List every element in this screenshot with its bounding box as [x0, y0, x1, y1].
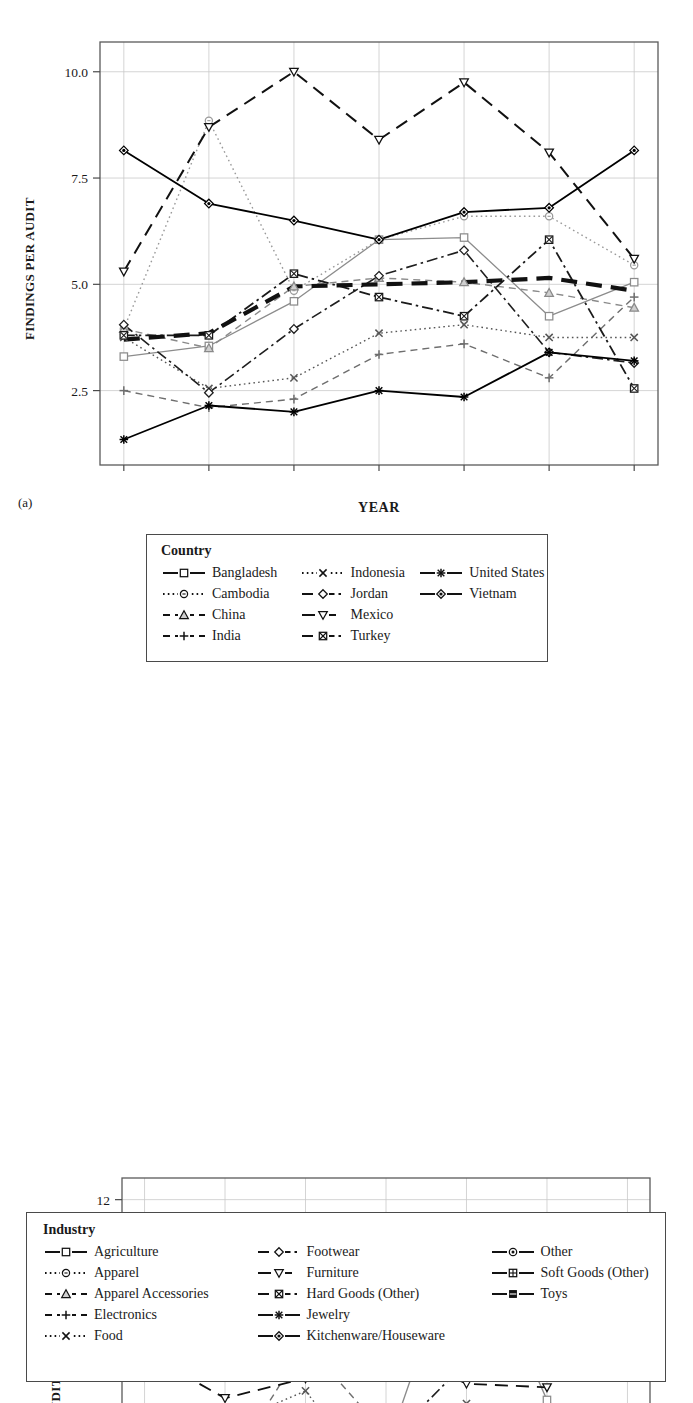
legend-item-label: Vietnam	[469, 586, 516, 602]
panel-a-tag: (a)	[18, 495, 32, 511]
legend-item-footwear[interactable]: Footwear	[256, 1241, 490, 1262]
legend-item-apparel[interactable]: Apparel	[43, 1262, 256, 1283]
svg-text:2014: 2014	[366, 477, 393, 480]
legend-item-united-states[interactable]: United States	[418, 562, 547, 583]
legend-key-icon	[256, 1328, 302, 1344]
legend-item-label: Jewelry	[307, 1307, 351, 1323]
legend-line-sample-icon	[161, 586, 207, 602]
panel-a-y-axis-label: FINDINGS PER AUDIT	[22, 197, 38, 340]
legend-line-sample-icon	[256, 1328, 302, 1344]
legend-key-icon	[418, 586, 464, 602]
legend-item-label: Apparel Accessories	[94, 1286, 209, 1302]
legend-item-turkey[interactable]: Turkey	[300, 625, 419, 646]
panel-a-legend-title: Country	[161, 543, 547, 559]
legend-item-label: Mexico	[351, 607, 394, 623]
legend-item-label: United States	[469, 565, 544, 581]
legend-line-sample-icon	[300, 586, 346, 602]
legend-line-sample-icon	[43, 1328, 89, 1344]
legend-item-hard-goods-other[interactable]: Hard Goods (Other)	[256, 1283, 490, 1304]
legend-item-label: Electronics	[94, 1307, 157, 1323]
svg-text:12: 12	[97, 1193, 111, 1208]
legend-key-icon	[43, 1286, 89, 1302]
legend-line-sample-icon	[418, 565, 464, 581]
legend-line-sample-icon	[43, 1265, 89, 1281]
legend-line-sample-icon	[161, 565, 207, 581]
legend-line-sample-icon	[256, 1307, 302, 1323]
legend-line-sample-icon	[300, 628, 346, 644]
panel-b-legend-title: Industry	[43, 1222, 665, 1238]
legend-item-food[interactable]: Food	[43, 1325, 256, 1346]
legend-key-icon	[490, 1265, 536, 1281]
legend-key-icon	[256, 1265, 302, 1281]
panel-a-x-axis-label: YEAR	[100, 500, 658, 516]
legend-item-label: Cambodia	[212, 586, 270, 602]
legend-key-icon	[161, 607, 207, 623]
legend-item-label: Food	[94, 1328, 123, 1344]
legend-item-indonesia[interactable]: Indonesia	[300, 562, 419, 583]
legend-item-soft-goods-other[interactable]: Soft Goods (Other)	[490, 1262, 665, 1283]
legend-column-1: AgricultureApparelApparel AccessoriesEle…	[43, 1241, 256, 1346]
legend-item-label: Hard Goods (Other)	[307, 1286, 420, 1302]
legend-line-sample-icon	[43, 1286, 89, 1302]
legend-line-sample-icon	[490, 1244, 536, 1260]
legend-key-icon	[161, 628, 207, 644]
legend-item-label: Other	[541, 1244, 573, 1260]
legend-item-toys[interactable]: Toys	[490, 1283, 665, 1304]
legend-item-india[interactable]: India	[161, 625, 300, 646]
legend-item-jewelry[interactable]: Jewelry	[256, 1304, 490, 1325]
legend-key-icon	[256, 1244, 302, 1260]
legend-item-kitchenware-houseware[interactable]: Kitchenware/Houseware	[256, 1325, 490, 1346]
legend-key-icon	[43, 1265, 89, 1281]
legend-item-label: Soft Goods (Other)	[541, 1265, 649, 1281]
svg-text:2016: 2016	[536, 477, 563, 480]
legend-line-sample-icon	[256, 1244, 302, 1260]
legend-item-cambodia[interactable]: Cambodia	[161, 583, 300, 604]
legend-item-label: Footwear	[307, 1244, 360, 1260]
legend-line-sample-icon	[256, 1286, 302, 1302]
svg-text:2017: 2017	[621, 477, 648, 480]
legend-column-2: FootwearFurnitureHard Goods (Other)Jewel…	[256, 1241, 490, 1346]
legend-line-sample-icon	[490, 1265, 536, 1281]
panel-b-legend-columns: AgricultureApparelApparel AccessoriesEle…	[43, 1241, 665, 1346]
legend-key-icon	[43, 1328, 89, 1344]
panel-b-legend: Industry AgricultureApparelApparel Acces…	[26, 1212, 666, 1382]
legend-key-icon	[490, 1286, 536, 1302]
legend-key-icon	[418, 565, 464, 581]
legend-item-agriculture[interactable]: Agriculture	[43, 1241, 256, 1262]
legend-item-bangladesh[interactable]: Bangladesh	[161, 562, 300, 583]
legend-line-sample-icon	[43, 1244, 89, 1260]
svg-text:2013: 2013	[280, 477, 307, 480]
legend-key-icon	[161, 565, 207, 581]
legend-key-icon	[300, 607, 346, 623]
legend-key-icon	[256, 1286, 302, 1302]
svg-text:2012: 2012	[195, 477, 222, 480]
legend-key-icon	[300, 586, 346, 602]
legend-line-sample-icon	[300, 565, 346, 581]
legend-key-icon	[43, 1244, 89, 1260]
legend-item-electronics[interactable]: Electronics	[43, 1304, 256, 1325]
legend-line-sample-icon	[256, 1265, 302, 1281]
legend-item-label: Indonesia	[351, 565, 405, 581]
legend-item-label: Turkey	[351, 628, 391, 644]
legend-item-label: Kitchenware/Houseware	[307, 1328, 445, 1344]
legend-key-icon	[43, 1307, 89, 1323]
legend-item-label: Toys	[541, 1286, 568, 1302]
legend-item-china[interactable]: China	[161, 604, 300, 625]
legend-item-other[interactable]: Other	[490, 1241, 665, 1262]
legend-item-vietnam[interactable]: Vietnam	[418, 583, 547, 604]
panel-a-plot: 2.55.07.510.0201120122013201420152016201…	[0, 0, 693, 480]
legend-item-label: India	[212, 628, 241, 644]
svg-text:2011: 2011	[111, 477, 138, 480]
svg-text:2.5: 2.5	[71, 384, 88, 399]
legend-item-jordan[interactable]: Jordan	[300, 583, 419, 604]
legend-item-label: Apparel	[94, 1265, 139, 1281]
svg-text:5.0: 5.0	[71, 277, 88, 292]
legend-key-icon	[300, 628, 346, 644]
legend-line-sample-icon	[43, 1307, 89, 1323]
legend-item-furniture[interactable]: Furniture	[256, 1262, 490, 1283]
legend-line-sample-icon	[418, 586, 464, 602]
legend-item-mexico[interactable]: Mexico	[300, 604, 419, 625]
legend-key-icon	[256, 1307, 302, 1323]
legend-item-apparel-accessories[interactable]: Apparel Accessories	[43, 1283, 256, 1304]
legend-line-sample-icon	[490, 1286, 536, 1302]
